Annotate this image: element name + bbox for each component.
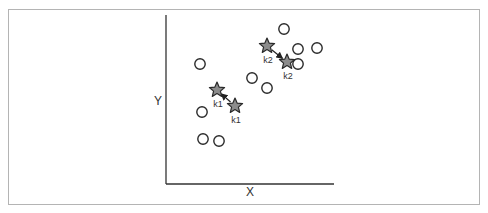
data-point-circle <box>279 24 289 34</box>
data-point-circle <box>247 73 257 83</box>
centroid-label: k2 <box>283 71 293 81</box>
data-points <box>195 24 322 146</box>
data-point-circle <box>214 136 224 146</box>
data-point-circle <box>312 43 322 53</box>
star-icon <box>279 54 294 68</box>
data-point-circle <box>197 107 207 117</box>
move-arrow-k2 <box>272 50 283 59</box>
centroid-label: k2 <box>263 55 273 65</box>
x-axis-label: X <box>246 185 254 199</box>
scatter-plot: X Y k1k1k2k2 <box>0 0 488 213</box>
data-point-circle <box>293 44 303 54</box>
data-point-circle <box>195 59 205 69</box>
centroid-label: k1 <box>231 115 241 125</box>
move-arrow-k1 <box>221 94 230 102</box>
star-icon <box>227 98 242 112</box>
y-axis-label: Y <box>154 94 162 108</box>
data-point-circle <box>262 83 272 93</box>
data-point-circle <box>198 134 208 144</box>
centroid-label: k1 <box>213 99 223 109</box>
centroid-k2-a: k2 <box>259 38 274 65</box>
